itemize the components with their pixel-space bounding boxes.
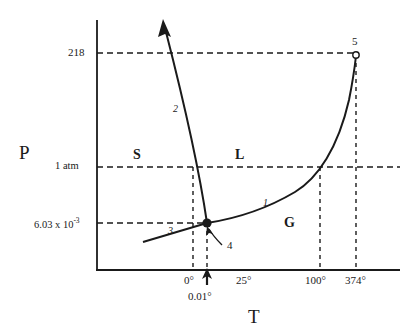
x-axis-label: T bbox=[248, 307, 260, 326]
vaporization-curve bbox=[207, 56, 356, 223]
x-tick-label-100-deg: 100° bbox=[305, 275, 326, 286]
y-axis-label: P bbox=[19, 143, 30, 162]
x-tick-label-25-deg: 25° bbox=[236, 275, 251, 286]
curve-label-fusion: 2 bbox=[173, 104, 178, 114]
curve-label-sublimation: 3 bbox=[168, 226, 173, 236]
y-tick-label-triple-pressure: 6.03 x 10-3 bbox=[34, 217, 80, 230]
x-tick-label-0-01-deg: 0.01° bbox=[188, 291, 212, 302]
fusion-curve bbox=[166, 32, 207, 223]
y-tick-label-1-atm: 1 atm bbox=[55, 161, 79, 172]
region-label-solid: S bbox=[133, 148, 141, 162]
region-label-liquid: L bbox=[235, 148, 244, 162]
critical-point-marker bbox=[353, 52, 359, 58]
point-label-triple-point: 4 bbox=[227, 240, 233, 251]
fusion-curve-arrowhead bbox=[158, 19, 171, 37]
sublimation-curve bbox=[143, 223, 207, 242]
x-tick-label-374-deg: 374° bbox=[345, 275, 366, 286]
curve-label-vaporization: 1 bbox=[263, 198, 268, 208]
y-tick-label-218: 218 bbox=[68, 47, 85, 58]
point-label-critical-point: 5 bbox=[352, 36, 358, 47]
phase-diagram-figure: P T 218 1 atm 6.03 x 10-3 0° 0.01° 25° 1… bbox=[0, 0, 411, 335]
y-tick-exponent: -3 bbox=[73, 216, 79, 225]
x-tick-label-0-deg: 0° bbox=[184, 275, 194, 286]
region-label-gas: G bbox=[284, 216, 295, 230]
y-tick-mantissa: 6.03 x 10 bbox=[34, 219, 73, 230]
